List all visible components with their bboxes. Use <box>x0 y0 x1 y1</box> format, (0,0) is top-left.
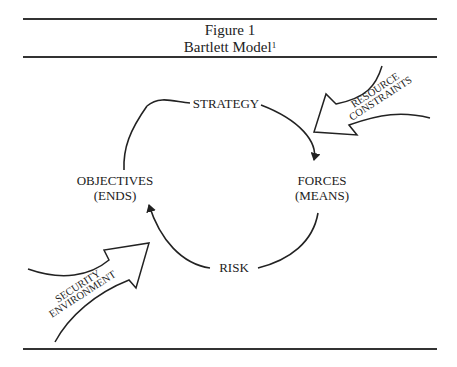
arc-strategy-to-forces <box>261 105 315 160</box>
node-strategy: STRATEGY <box>193 96 260 111</box>
node-objectives: OBJECTIVES <box>77 173 154 188</box>
resource-constraints-arrow: RESOURCE CONSTRAINTS <box>314 66 430 135</box>
arc-left-top-join <box>147 100 190 106</box>
node-ends: (ENDS) <box>94 188 137 203</box>
arc-objectives-to-strategy <box>124 106 147 170</box>
node-means: (MEANS) <box>295 188 349 203</box>
node-risk: RISK <box>219 260 249 275</box>
bottom-rule <box>23 348 437 350</box>
arc-forces-to-risk <box>258 213 318 268</box>
node-forces: FORCES <box>297 173 346 188</box>
arc-risk-to-objectives <box>149 205 210 268</box>
bartlett-cycle-diagram: STRATEGY FORCES (MEANS) RISK OBJECTIVES … <box>0 0 457 367</box>
security-environment-arrow: SECURITY ENVIRONMENT <box>28 243 149 342</box>
